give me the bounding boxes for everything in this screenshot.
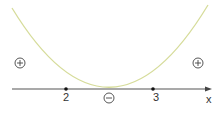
plus-sign-icon-right <box>193 58 203 68</box>
root-label-3: 3 <box>153 91 159 103</box>
plus-sign-icon-left <box>15 58 25 68</box>
parabola-curve <box>12 5 208 87</box>
axis-label-x: x <box>206 93 212 105</box>
root-label-2: 2 <box>63 91 69 103</box>
x-axis-arrow-icon <box>205 87 212 92</box>
minus-sign-icon-middle <box>104 93 114 103</box>
sign-chart-diagram: 2 3 x <box>0 0 221 114</box>
